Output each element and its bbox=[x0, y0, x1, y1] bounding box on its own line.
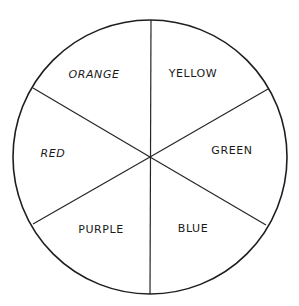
color-wheel-diagram: YELLOW GREEN BLUE PURPLE RED ORANGE bbox=[0, 0, 299, 306]
segment-label-orange: ORANGE bbox=[68, 68, 119, 81]
segment-label-green: GREEN bbox=[211, 144, 252, 157]
segment-label-blue: BLUE bbox=[178, 222, 209, 235]
segment-label-purple: PURPLE bbox=[78, 223, 124, 236]
segment-label-red: RED bbox=[41, 147, 66, 160]
segment-label-yellow: YELLOW bbox=[168, 67, 218, 80]
lower-right-divider bbox=[150, 157, 266, 225]
lower-left-divider bbox=[33, 157, 150, 224]
